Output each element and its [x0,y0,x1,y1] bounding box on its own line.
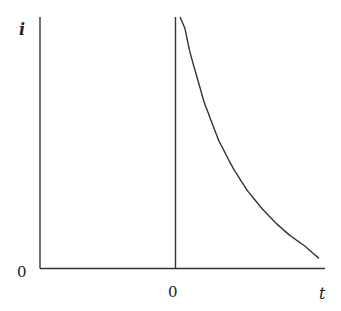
decay-curve [180,17,319,258]
x-axis-label: t [319,286,325,302]
x-zero-label: 0 [168,285,178,300]
y-axis-label: i [19,22,25,38]
y-zero-label: 0 [17,265,27,280]
chart-plot [0,0,341,311]
